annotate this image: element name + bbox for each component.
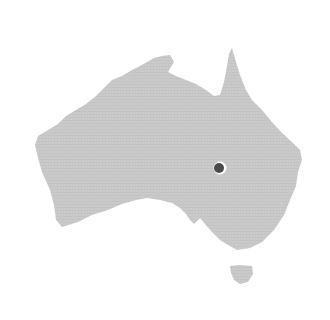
- location-marker: [214, 162, 227, 175]
- australia-locator-map: [0, 0, 330, 320]
- mainland: [35, 48, 302, 250]
- tasmania: [230, 265, 253, 284]
